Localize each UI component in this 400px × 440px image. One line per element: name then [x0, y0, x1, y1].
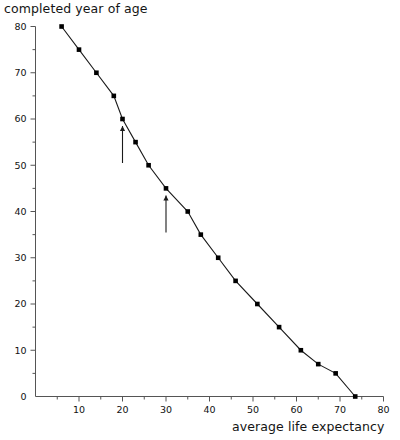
data-point-marker: [277, 325, 282, 330]
data-point-marker: [316, 362, 321, 367]
y-tick-label: 50: [14, 160, 26, 171]
data-point-marker: [255, 302, 260, 307]
data-point-marker: [59, 24, 64, 29]
data-point-marker: [146, 163, 151, 168]
data-point-marker: [164, 186, 169, 191]
data-point-marker: [333, 371, 338, 376]
x-tick-label: 30: [160, 404, 172, 415]
data-series-markers: [59, 24, 357, 399]
x-axis-title: average life expectancy: [232, 419, 385, 434]
data-point-marker: [233, 279, 238, 284]
data-point-marker: [112, 94, 117, 99]
y-tick-label: 20: [14, 298, 26, 309]
y-tick-label: 40: [14, 206, 26, 217]
data-point-marker: [120, 117, 125, 122]
y-tick-label: 30: [14, 252, 26, 263]
data-point-marker: [216, 255, 221, 260]
x-tick-label: 70: [334, 404, 346, 415]
data-point-marker: [199, 232, 204, 237]
y-tick-label: 60: [14, 113, 26, 124]
y-tick-label: 10: [14, 345, 26, 356]
data-point-marker: [185, 209, 190, 214]
x-tick-label: 20: [116, 404, 128, 415]
y-tick-label: 80: [14, 21, 26, 32]
data-point-marker: [94, 70, 99, 75]
y-tick-label: 0: [20, 391, 26, 402]
y-axis-title: completed year of age: [4, 1, 148, 16]
data-point-marker: [299, 348, 304, 353]
series-polyline: [62, 27, 356, 397]
x-axis-ticks: 1020304050607080: [57, 397, 389, 415]
axes-group: [36, 27, 384, 397]
annotation-arrows: [120, 126, 169, 232]
data-point-marker: [133, 140, 138, 145]
y-axis-ticks: 01020304050607080: [14, 21, 35, 402]
x-tick-label: 60: [290, 404, 302, 415]
x-tick-label: 40: [203, 404, 215, 415]
chart-figure: completed year of age average life expec…: [0, 0, 400, 440]
x-tick-label: 80: [377, 404, 389, 415]
plot-area: 01020304050607080 1020304050607080: [0, 0, 400, 440]
arrow-2-head: [163, 195, 168, 200]
x-tick-label: 50: [247, 404, 259, 415]
data-point-marker: [353, 394, 358, 399]
data-series-line: [62, 27, 356, 397]
arrow-1-head: [120, 126, 125, 131]
x-tick-label: 10: [73, 404, 85, 415]
data-point-marker: [77, 47, 82, 52]
y-tick-label: 70: [14, 67, 26, 78]
